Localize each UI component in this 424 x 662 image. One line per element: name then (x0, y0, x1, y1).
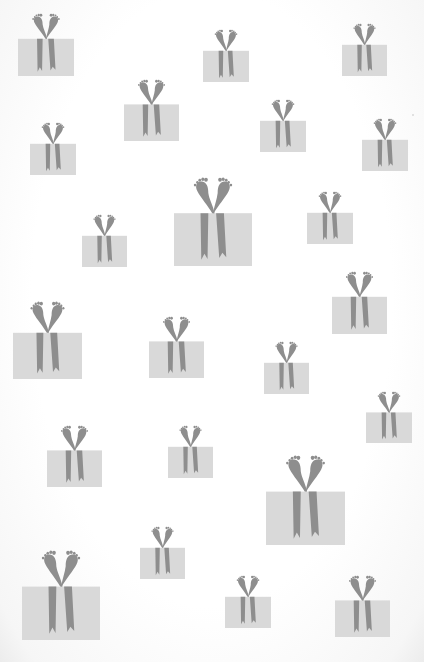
gift-box-icon (47, 426, 102, 487)
gift-box-icon (225, 576, 271, 628)
gift-box-with-feet-bow-icon (264, 342, 309, 394)
gift-box-with-feet-bow-icon (47, 426, 102, 487)
gift-box-with-feet-bow-icon (335, 576, 390, 637)
gift-box-with-feet-bow-icon (124, 80, 179, 141)
gift-box-with-feet-bow-icon (174, 178, 252, 266)
gift-box-icon (13, 302, 82, 379)
gift-box-with-feet-bow-icon (140, 527, 185, 579)
gift-box-with-feet-bow-icon (307, 192, 353, 244)
gift-box-with-feet-bow-icon (149, 317, 204, 378)
gift-box-icon (366, 392, 412, 443)
gift-box-with-feet-bow-icon (168, 426, 213, 478)
gift-box-icon (18, 14, 74, 76)
gift-box-icon (149, 317, 204, 378)
gift-box-icon (168, 426, 213, 478)
gift-box-icon (140, 527, 185, 579)
gift-box-with-feet-bow-icon (22, 551, 100, 640)
gift-box-with-feet-bow-icon (260, 100, 306, 152)
gift-box-icon (82, 215, 127, 267)
gift-box-with-feet-bow-icon (13, 302, 82, 379)
gift-box-with-feet-bow-icon (203, 30, 249, 82)
wrapping-paper-pattern (0, 0, 424, 662)
gift-box-with-feet-bow-icon (362, 119, 408, 171)
gift-box-with-feet-bow-icon (82, 215, 127, 267)
gift-box-icon (264, 342, 309, 394)
gift-box-icon (332, 272, 387, 334)
gift-box-icon (124, 80, 179, 141)
speck-dot (412, 114, 414, 116)
gift-box-with-feet-bow-icon (30, 123, 76, 175)
gift-box-icon (362, 119, 408, 171)
gift-box-icon (342, 24, 387, 76)
gift-box-icon (266, 456, 345, 545)
gift-box-with-feet-bow-icon (266, 456, 345, 545)
gift-box-with-feet-bow-icon (342, 24, 387, 76)
gift-box-with-feet-bow-icon (225, 576, 271, 628)
gift-box-icon (22, 551, 100, 640)
gift-box-icon (30, 123, 76, 175)
gift-box-icon (203, 30, 249, 82)
gift-box-with-feet-bow-icon (18, 14, 74, 76)
gift-box-icon (307, 192, 353, 244)
gift-box-with-feet-bow-icon (332, 272, 387, 334)
gift-box-icon (260, 100, 306, 152)
gift-box-icon (174, 178, 252, 266)
gift-box-with-feet-bow-icon (366, 392, 412, 443)
gift-box-icon (335, 576, 390, 637)
